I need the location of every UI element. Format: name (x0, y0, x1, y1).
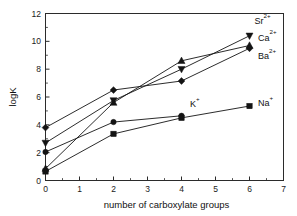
series-annotation-K: K+ (190, 94, 200, 109)
y-tick-label: 12 (32, 9, 42, 19)
y-tick-label: 8 (36, 64, 41, 74)
x-tick-label: 7 (281, 184, 286, 194)
series-line-ba2 (46, 48, 250, 127)
y-tick-label: 2 (36, 148, 41, 158)
y-tick-label: 0 (36, 176, 41, 186)
plot-frame (46, 14, 284, 181)
y-tick-label: 6 (36, 92, 41, 102)
x-axis-title: number of carboxylate groups (104, 199, 230, 210)
series-annotation-Na: Na+ (258, 93, 274, 108)
x-tick-label: 5 (213, 184, 218, 194)
marker-square (43, 169, 48, 174)
line-chart-canvas: 02468101201234567number of carboxylate g… (0, 0, 297, 216)
x-tick-label: 2 (111, 184, 116, 194)
series-sr2 (42, 33, 253, 147)
marker-diamond (110, 87, 117, 94)
y-tick-label: 10 (32, 36, 42, 46)
marker-triangle-down (42, 140, 49, 146)
axis-frame-box (46, 14, 284, 181)
x-tick-label: 1 (77, 184, 82, 194)
series-line-ca2 (46, 46, 250, 169)
marker-triangle-down (246, 33, 253, 39)
x-axis: 01234567 (43, 177, 286, 194)
chart-figure: 02468101201234567number of carboxylate g… (0, 0, 297, 216)
marker-circle (43, 149, 48, 154)
x-tick-label: 6 (247, 184, 252, 194)
series-na (43, 103, 252, 174)
marker-circle (111, 119, 116, 124)
marker-square (179, 115, 184, 120)
marker-square (111, 131, 116, 136)
series-annotation-Ba2: Ba2+ (258, 46, 276, 61)
series-ca2 (42, 42, 253, 172)
y-axis-title: logK (7, 87, 18, 107)
series-line-sr2 (46, 36, 250, 143)
series-annotation-Ca2: Ca2+ (258, 28, 277, 43)
y-tick-label: 4 (36, 120, 41, 130)
x-tick-label: 3 (145, 184, 150, 194)
x-tick-label: 0 (43, 184, 48, 194)
y-axis: 024681012 (32, 9, 50, 186)
series-ba2 (42, 45, 253, 131)
series-annotations: Sr2+Ca2+Ba2+K+Na+ (190, 11, 277, 109)
x-tick-label: 4 (179, 184, 184, 194)
marker-triangle-down (178, 66, 185, 72)
marker-square (247, 103, 252, 108)
marker-diamond (178, 78, 185, 85)
